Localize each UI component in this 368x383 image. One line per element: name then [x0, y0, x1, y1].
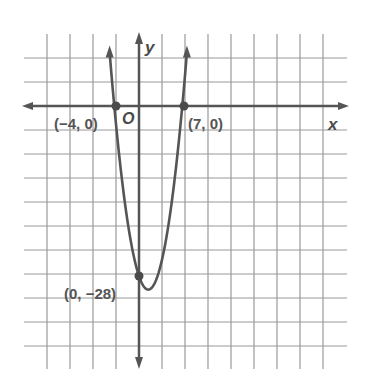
y-axis-label: y	[144, 38, 156, 57]
x-axis-label: x	[327, 115, 339, 134]
curve-right-arrow-icon	[183, 45, 191, 57]
point-x-intercept-7	[180, 102, 189, 111]
curve-left-arrow-icon	[106, 45, 114, 57]
point-y-intercept	[135, 272, 144, 281]
x-axis-right-arrow-icon	[338, 102, 349, 110]
label-point-0-neg28: (0, −28)	[64, 285, 116, 302]
label-point-7-0: (7, 0)	[188, 115, 223, 132]
y-axis-up-arrow-icon	[135, 32, 143, 44]
point-x-intercept-neg4	[112, 102, 121, 111]
coordinate-plane: (−4, 0) (7, 0) (0, −28) O y x	[0, 0, 368, 383]
parabola-curve	[110, 53, 187, 290]
origin-label: O	[122, 110, 135, 127]
label-point-neg4-0: (−4, 0)	[54, 115, 98, 132]
y-axis-down-arrow-icon	[135, 357, 143, 369]
x-axis-left-arrow-icon	[22, 102, 33, 110]
